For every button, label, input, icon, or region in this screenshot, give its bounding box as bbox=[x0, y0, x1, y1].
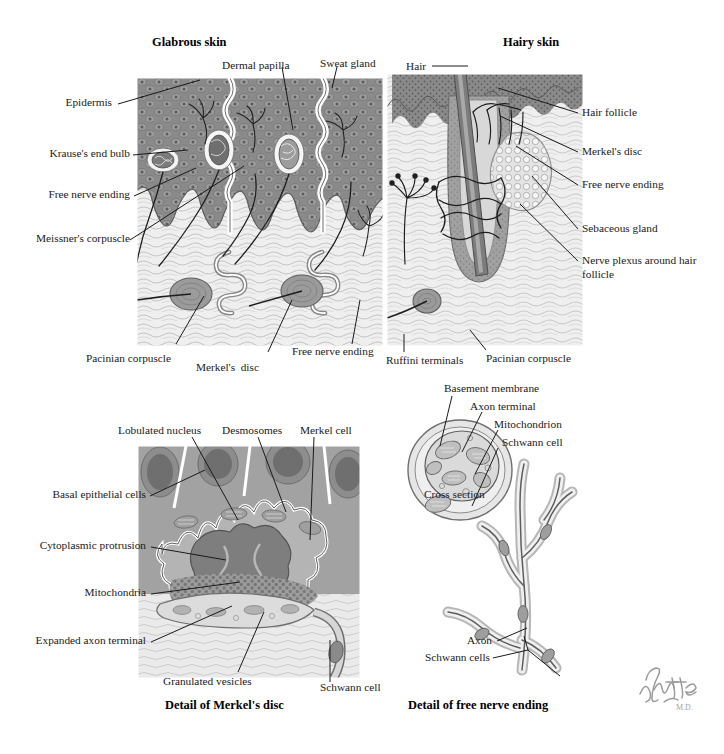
label-ruffini-terminals: Ruffini terminals bbox=[386, 354, 463, 368]
hairy-skin-title: Hairy skin bbox=[503, 35, 559, 50]
label-expanded-axon-terminal: Expanded axon terminal bbox=[16, 634, 146, 648]
label-krause-end-bulb: Krause's end bulb bbox=[10, 147, 130, 161]
label-basal-epithelial-cells: Basal epithelial cells bbox=[26, 488, 146, 502]
label-axon-terminal: Axon terminal bbox=[470, 400, 536, 414]
label-nerve-plexus-around-hair-follicle: Nerve plexus around hair follicle bbox=[582, 254, 710, 282]
label-sweat-gland: Sweat gland bbox=[320, 57, 376, 71]
label-pacinian-corpuscle-hairy: Pacinian corpuscle bbox=[486, 352, 571, 366]
hairy-skin-illustration bbox=[387, 74, 583, 346]
netter-signature: M.D. bbox=[636, 660, 708, 712]
label-epidermis: Epidermis bbox=[30, 96, 112, 110]
svg-text:M.D.: M.D. bbox=[676, 703, 693, 712]
label-pacinian-corpuscle-glabrous: Pacinian corpuscle bbox=[86, 352, 171, 366]
label-sebaceous-gland: Sebaceous gland bbox=[582, 222, 658, 236]
glabrous-skin-illustration bbox=[137, 78, 383, 346]
merkel-disc-illustration bbox=[138, 446, 360, 678]
glabrous-skin-title: Glabrous skin bbox=[152, 35, 227, 50]
free-nerve-detail-caption: Detail of free nerve ending bbox=[408, 698, 548, 713]
label-schwann-cell-cross-section: Schwann cell bbox=[502, 436, 563, 450]
merkel-detail-caption: Detail of Merkel's disc bbox=[165, 698, 284, 713]
figure-canvas: Glabrous skin bbox=[0, 0, 724, 754]
label-basement-membrane: Basement membrane bbox=[444, 382, 539, 396]
label-free-nerve-ending: Free nerve ending bbox=[10, 188, 130, 202]
label-cytoplasmic-protrusion: Cytoplasmic protrusion bbox=[16, 539, 146, 553]
label-merkels-disc-glabrous: Merkel's disc bbox=[196, 361, 259, 375]
label-hair-follicle: Hair follicle bbox=[582, 106, 637, 120]
label-hair: Hair bbox=[406, 60, 426, 74]
label-dermal-papilla: Dermal papilla bbox=[222, 59, 289, 73]
label-mitochondria: Mitochondria bbox=[46, 586, 146, 600]
label-meissners-corpuscle: Meissner's corpuscle bbox=[6, 232, 130, 246]
label-free-nerve-ending-glabrous-bottom: Free nerve ending bbox=[292, 345, 374, 359]
label-merkel-cell: Merkel cell bbox=[300, 424, 352, 438]
label-granulated-vesicles: Granulated vesicles bbox=[163, 675, 252, 689]
label-free-nerve-ending-hairy: Free nerve ending bbox=[582, 178, 664, 192]
label-cross-section: Cross section bbox=[424, 488, 485, 502]
label-axon: Axon bbox=[430, 634, 492, 648]
label-mitochondrion: Mitochondrion bbox=[494, 418, 562, 432]
label-merkels-disc-hairy: Merkel's disc bbox=[582, 145, 642, 159]
label-schwann-cell-merkel: Schwann cell bbox=[320, 681, 381, 695]
label-schwann-cells: Schwann cells bbox=[396, 651, 490, 665]
label-desmosomes: Desmosomes bbox=[222, 424, 282, 438]
label-lobulated-nucleus: Lobulated nucleus bbox=[118, 424, 201, 438]
